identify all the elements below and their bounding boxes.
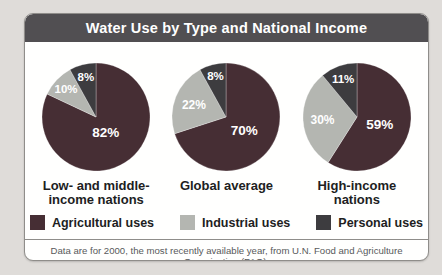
slice-percent-label: 70% — [231, 123, 258, 138]
legend-label: Industrial uses — [202, 216, 290, 230]
pie-column-low-middle-income: 82%10%8% Low- and middle- income nations — [31, 62, 161, 207]
personal-swatch-icon — [316, 215, 331, 230]
source-footnote: Data are for 2000, the most recently ava… — [25, 239, 428, 261]
slice-percent-label: 59% — [366, 117, 393, 132]
legend-item-industrial: Industrial uses — [180, 215, 290, 230]
industrial-swatch-icon — [180, 215, 195, 230]
slice-percent-label: 11% — [332, 73, 354, 85]
figure-title-bar: Water Use by Type and National Income — [25, 14, 428, 42]
slice-percent-label: 82% — [92, 125, 119, 140]
slice-percent-label: 8% — [208, 70, 225, 82]
pie-chart-high-income: 59%30%11% — [302, 62, 412, 172]
pie-caption-low-middle-income: Low- and middle- income nations — [43, 179, 150, 207]
slice-percent-label: 8% — [78, 71, 95, 83]
legend-item-agricultural: Agricultural uses — [30, 215, 154, 230]
legend: Agricultural uses Industrial uses Person… — [25, 207, 428, 239]
pie-svg: 82%10%8% — [41, 62, 151, 172]
pie-chart-global-average: 70%22%8% — [171, 62, 281, 172]
pie-svg: 59%30%11% — [302, 62, 412, 172]
pie-column-high-income: 59%30%11% High-income nations — [292, 62, 422, 207]
pie-column-global-average: 70%22%8% Global average — [161, 62, 291, 207]
figure-card: Water Use by Type and National Income 82… — [24, 13, 429, 261]
pie-charts-row: 82%10%8% Low- and middle- income nations… — [25, 42, 428, 207]
pie-caption-high-income: High-income nations — [317, 179, 396, 207]
slice-percent-label: 22% — [182, 98, 206, 112]
pie-chart-low-middle-income: 82%10%8% — [41, 62, 151, 172]
slice-percent-label: 10% — [55, 83, 78, 95]
pie-caption-global-average: Global average — [180, 179, 273, 193]
slice-percent-label: 30% — [310, 113, 334, 127]
legend-label: Agricultural uses — [52, 216, 154, 230]
agricultural-swatch-icon — [30, 215, 45, 230]
legend-item-personal: Personal uses — [316, 215, 423, 230]
figure-title: Water Use by Type and National Income — [86, 20, 367, 36]
legend-label: Personal uses — [338, 216, 423, 230]
pie-svg: 70%22%8% — [171, 62, 281, 172]
